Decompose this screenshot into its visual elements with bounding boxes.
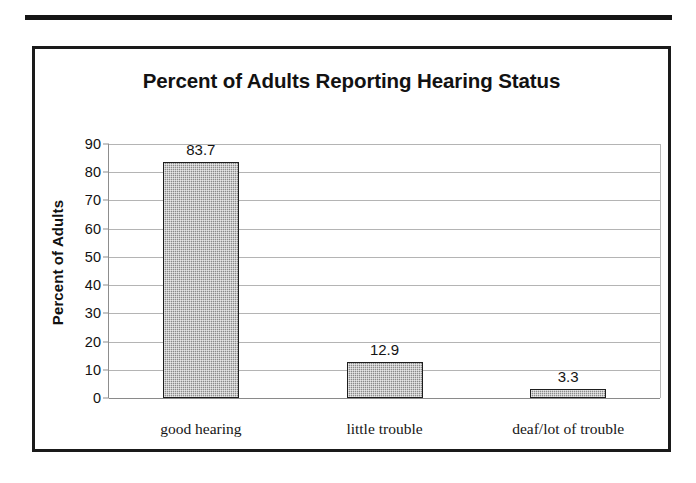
y-tick-mark [103, 285, 109, 286]
x-axis-category-label: deaf/lot of trouble [512, 420, 624, 438]
chart-frame: Percent of Adults Reporting Hearing Stat… [32, 46, 671, 452]
bar [163, 162, 239, 398]
y-tick-label: 80 [85, 164, 101, 180]
plot-area: 010203040506070809083.7good hearing12.9l… [108, 144, 661, 398]
bar-value-label: 3.3 [558, 368, 579, 385]
x-axis-category-label: little trouble [346, 420, 422, 438]
chart-title: Percent of Adults Reporting Hearing Stat… [35, 69, 668, 93]
bar-value-label: 83.7 [186, 141, 215, 158]
y-tick-mark [103, 228, 109, 229]
top-horizontal-rule [25, 15, 672, 20]
y-tick-label: 0 [93, 390, 101, 406]
bar-value-label: 12.9 [370, 341, 399, 358]
y-tick-label: 50 [85, 249, 101, 265]
y-tick-label: 70 [85, 192, 101, 208]
y-tick-mark [103, 313, 109, 314]
bar [530, 389, 606, 398]
y-tick-label: 60 [85, 221, 101, 237]
y-tick-mark [103, 200, 109, 201]
y-tick-label: 40 [85, 277, 101, 293]
x-axis-category-label: good hearing [160, 420, 241, 438]
y-tick-mark [103, 172, 109, 173]
y-tick-mark [103, 144, 109, 145]
y-tick-mark [103, 341, 109, 342]
y-tick-label: 30 [85, 305, 101, 321]
y-axis-title: Percent of Adults [49, 173, 66, 353]
y-tick-mark [103, 256, 109, 257]
axis-baseline [109, 398, 660, 399]
y-tick-label: 90 [85, 136, 101, 152]
y-tick-label: 20 [85, 334, 101, 350]
y-tick-label: 10 [85, 362, 101, 378]
y-tick-mark [103, 369, 109, 370]
bar [347, 362, 423, 398]
y-tick-mark [103, 398, 109, 399]
